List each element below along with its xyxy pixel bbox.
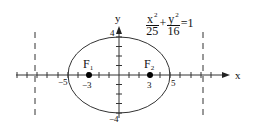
tick-label-x-pos5: 5 [171,78,176,88]
tick-label-x-neg5: −5 [58,77,68,87]
focus-x-value-3: 3 [147,80,152,90]
equation-term-x: x2 25 [146,10,159,37]
equation-equals-one: =1 [181,16,194,31]
y-axis-arrow-icon [116,26,122,34]
focus-point-f1 [86,72,92,78]
focus-label-f1: F1 [83,57,94,72]
ellipse-diagram: F1 F2 −3 3 −5 5 4 −4 x y [0,0,257,126]
x-axis-arrow-icon [222,72,230,78]
focus-x-value-neg3: −3 [82,80,92,90]
equation-plus: + [160,16,167,31]
y-axis-label: y [115,12,121,24]
x-axis-label: x [235,69,241,81]
focus-point-f2 [147,72,153,78]
tick-label-y-neg4: −4 [109,114,119,124]
focus-label-f2: F2 [144,57,155,72]
ellipse-equation: x2 25 + y2 16 =1 [146,10,195,37]
tick-label-y-pos4: 4 [110,28,115,38]
equation-term-y: y2 16 [167,10,180,37]
